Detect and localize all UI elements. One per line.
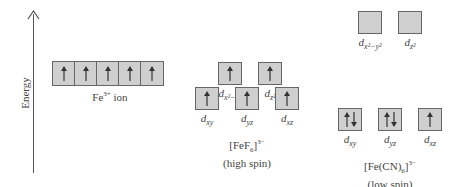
spin-up-arrow-icon: [127, 66, 133, 81]
free-ion-orbital-5: [141, 62, 163, 85]
free-ion-symbol: Fe: [92, 91, 103, 103]
high-spin-dxz-label: dxz: [267, 112, 307, 127]
spin-up-arrow-icon: [384, 112, 390, 127]
high-spin-dx2y2-orbital: [218, 62, 242, 85]
spin-up-arrow-icon: [427, 112, 433, 127]
high-spin-label: (high spin): [207, 157, 287, 170]
spin-down-arrow-icon: [351, 112, 357, 127]
low-spin-dyz-orbital: [378, 108, 402, 131]
low-spin-dxz-orbital: [418, 108, 442, 131]
energy-axis-label: Energy: [19, 70, 31, 116]
free-ion-orbital-row: [52, 61, 164, 86]
high-spin-caption: [FeF6]3− (high spin): [207, 136, 287, 170]
low-spin-dxy-orbital: [338, 108, 362, 131]
free-ion-orbital-1: [53, 62, 75, 85]
free-ion-orbital-4: [119, 62, 141, 85]
spin-up-arrow-icon: [267, 66, 273, 81]
spin-up-arrow-icon: [83, 66, 89, 81]
low-spin-label: (low spin): [345, 178, 435, 187]
spin-up-arrow-icon: [149, 66, 155, 81]
high-spin-dz2-orbital: [258, 62, 282, 85]
free-ion-label: Fe3+ ion: [70, 88, 150, 104]
low-spin-dx2y2-orbital: [358, 11, 382, 34]
spin-up-arrow-icon: [244, 91, 250, 106]
free-ion-orbital-3: [97, 62, 119, 85]
free-ion-charge: 3+: [103, 90, 110, 98]
high-spin-dxy-orbital: [195, 87, 219, 110]
low-spin-dz2-label: dz²: [390, 36, 430, 51]
spin-up-arrow-icon: [61, 66, 67, 81]
high-spin-formula: [FeF6]3−: [207, 136, 287, 157]
high-spin-dxz-orbital: [275, 87, 299, 110]
low-spin-formula: [Fe(CN)6]3−: [345, 157, 435, 178]
energy-axis-line: [33, 14, 34, 173]
low-spin-dyz-label: dyz: [370, 133, 410, 148]
free-ion-orbital-2: [75, 62, 97, 85]
low-spin-dz2-orbital: [398, 11, 422, 34]
low-spin-dxz-label: dxz: [410, 133, 450, 148]
free-ion-suffix: ion: [111, 91, 128, 103]
spin-down-arrow-icon: [391, 112, 397, 127]
spin-up-arrow-icon: [105, 66, 111, 81]
high-spin-dyz-orbital: [235, 87, 259, 110]
spin-up-arrow-icon: [204, 91, 210, 106]
energy-axis-arrowhead-icon: [27, 10, 40, 20]
high-spin-dyz-label: dyz: [227, 112, 267, 127]
low-spin-caption: [Fe(CN)6]3− (low spin): [345, 157, 435, 187]
low-spin-dxy-label: dxy: [330, 133, 370, 148]
spin-up-arrow-icon: [227, 66, 233, 81]
high-spin-dxy-label: dxy: [187, 112, 227, 127]
spin-up-arrow-icon: [344, 112, 350, 127]
low-spin-dx2y2-label: dx²−y²: [350, 36, 390, 51]
spin-up-arrow-icon: [284, 91, 290, 106]
